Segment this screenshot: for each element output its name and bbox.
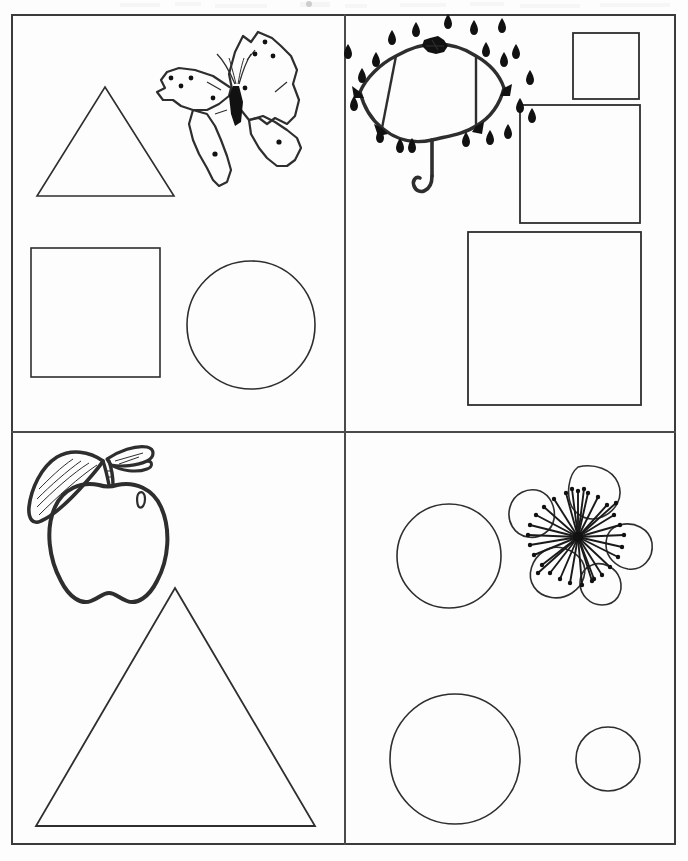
shape-circle-top bbox=[397, 504, 501, 608]
shape-circle bbox=[187, 261, 315, 389]
shape-triangle bbox=[37, 87, 174, 196]
shape-medium-square bbox=[520, 105, 640, 223]
quadrant-bottom-right bbox=[346, 433, 676, 845]
shape-circle-large bbox=[390, 694, 520, 824]
quadrant-bottom-left bbox=[13, 433, 344, 845]
quadrant-top-left bbox=[13, 16, 344, 431]
shape-large-triangle bbox=[36, 588, 315, 826]
shape-large-square bbox=[468, 232, 641, 405]
apple-illustration bbox=[29, 447, 168, 602]
butterfly-illustration bbox=[157, 32, 301, 186]
quadrant-top-right-canvas bbox=[346, 16, 676, 431]
flower-illustration bbox=[509, 466, 652, 605]
quadrant-bottom-right-canvas bbox=[346, 433, 676, 845]
raindrop-group bbox=[344, 14, 536, 153]
quadrant-bottom-left-canvas bbox=[13, 433, 344, 845]
worksheet-page bbox=[0, 0, 688, 861]
shape-square bbox=[31, 248, 160, 377]
quadrant-top-right bbox=[346, 16, 676, 431]
shape-circle-small bbox=[576, 727, 640, 791]
quadrant-top-left-canvas bbox=[13, 16, 344, 431]
umbrella-illustration bbox=[344, 14, 536, 191]
shape-small-square bbox=[573, 33, 639, 99]
